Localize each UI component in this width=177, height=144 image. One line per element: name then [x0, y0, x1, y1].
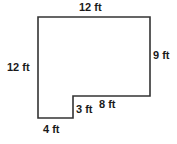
l-shape-outline [38, 17, 150, 118]
dimension-label-top: 12 ft [79, 1, 102, 13]
figure-container: 12 ft 12 ft 9 ft 8 ft 3 ft 4 ft [0, 0, 177, 144]
dimension-label-bottom: 4 ft [43, 123, 60, 135]
dimension-label-left: 12 ft [7, 61, 30, 73]
dimension-label-right: 9 ft [153, 49, 170, 61]
dimension-label-notch-horizontal: 8 ft [99, 98, 116, 110]
dimension-label-notch-vertical: 3 ft [76, 103, 93, 115]
